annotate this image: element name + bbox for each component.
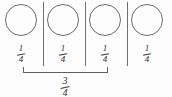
total-bracket	[23, 67, 108, 73]
circle-part-2	[47, 4, 79, 36]
fraction-numerator: 1	[144, 44, 151, 53]
fraction-strip-figure: 1 4 1 4 1 4 1 4 3 4	[0, 0, 172, 97]
fraction-denominator: 4	[62, 88, 69, 97]
circle-part-4	[131, 4, 163, 36]
fraction-label-part-3: 1 4	[101, 44, 109, 64]
fraction-label-part-4: 1 4	[143, 44, 151, 64]
fraction-label-part-1: 1 4	[17, 44, 25, 64]
fraction-denominator: 4	[144, 55, 151, 64]
fraction-numerator: 1	[60, 44, 67, 53]
fraction-label-total: 3 4	[61, 76, 70, 97]
fraction-denominator: 4	[18, 55, 25, 64]
fraction-denominator: 4	[60, 55, 67, 64]
divider-line-2	[85, 2, 86, 66]
circle-part-1	[5, 4, 37, 36]
circle-part-3	[89, 4, 121, 36]
fraction-numerator: 1	[102, 44, 109, 53]
divider-line-3	[127, 2, 128, 66]
fraction-numerator: 1	[18, 44, 25, 53]
fraction-numerator: 3	[62, 76, 69, 86]
fraction-denominator: 4	[102, 55, 109, 64]
fraction-label-part-2: 1 4	[59, 44, 67, 64]
divider-line-1	[43, 2, 44, 66]
